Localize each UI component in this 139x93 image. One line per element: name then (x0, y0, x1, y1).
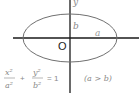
ellipse-equation: x² a² + y² b² = 1 (a > b) (4, 68, 112, 90)
ellipse-diagram: y b a O x² a² + y² b² = 1 (a > b) (0, 0, 139, 93)
semi-major-label: a (95, 28, 100, 38)
plus-sign: + (20, 74, 25, 83)
term1-numerator: x² (5, 68, 13, 77)
equals-one: = 1 (47, 74, 59, 83)
term2-numerator: y² (32, 68, 41, 77)
term1-denominator: a² (5, 81, 13, 90)
condition-text: (a > b) (84, 74, 112, 83)
origin-label: O (58, 40, 67, 52)
semi-minor-label: b (73, 21, 79, 31)
term2-denominator: b² (33, 81, 41, 90)
y-axis-label: y (72, 0, 79, 7)
